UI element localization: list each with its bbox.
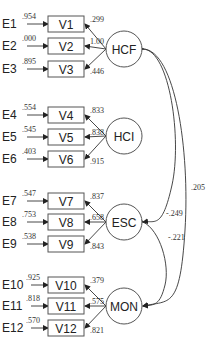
error-term-label: E8 — [2, 215, 17, 229]
error-term-label: E5 — [2, 130, 17, 144]
error-variance: .538 — [22, 232, 36, 241]
loading-value: 1.00 — [90, 37, 104, 46]
error-variance: .547 — [22, 189, 36, 198]
loading-arrow — [85, 306, 106, 328]
indicator-label: V5 — [59, 131, 74, 145]
error-term-label: E11 — [2, 299, 23, 313]
loading-value: .299 — [90, 15, 104, 24]
loading-value: .658 — [90, 213, 104, 222]
factor-label: HCI — [114, 130, 135, 144]
error-variance: .753 — [22, 210, 36, 219]
covariance-paths: .205-.249-.221 — [143, 49, 205, 306]
indicators: E1.954V1E2.000V2E3.895V3E4.554V4E5.545V5… — [2, 12, 84, 336]
sem-diagram: .205-.249-.221 .2991.00.446.833.838.915.… — [0, 0, 216, 355]
error-variance: .895 — [22, 57, 36, 66]
error-variance: .954 — [22, 12, 36, 21]
indicator-label: V6 — [59, 153, 74, 167]
error-term-label: E12 — [2, 321, 24, 335]
covariance-value: -.249 — [166, 209, 183, 218]
error-variance: .925 — [26, 273, 40, 282]
factors: HCFHCIESCMON — [106, 31, 142, 324]
error-term-label: E10 — [2, 278, 24, 292]
error-term-label: E6 — [2, 152, 17, 166]
error-variance: .554 — [22, 103, 36, 112]
indicator-label: V9 — [59, 238, 74, 252]
loading-value: .915 — [90, 157, 104, 166]
error-term-label: E1 — [2, 17, 17, 31]
indicator-label: V4 — [59, 109, 74, 123]
loading-value: .833 — [90, 106, 104, 115]
loading-paths: .2991.00.446.833.838.915.837.658.843.379… — [85, 15, 106, 335]
error-variance: .818 — [26, 294, 40, 303]
factor-label: HCF — [112, 43, 137, 57]
indicator-label: V8 — [59, 216, 74, 230]
error-term-label: E4 — [2, 108, 17, 122]
loading-value: .843 — [90, 242, 104, 251]
error-variance: .570 — [26, 316, 40, 325]
indicator-label: V1 — [59, 18, 74, 32]
loading-arrow — [85, 46, 106, 49]
factor-label: ESC — [112, 216, 137, 230]
indicator-label: V11 — [56, 300, 77, 314]
loading-value: .575 — [90, 297, 104, 306]
loading-arrow — [85, 136, 106, 159]
loading-value: .379 — [90, 276, 104, 285]
error-variance: .545 — [22, 125, 36, 134]
error-term-label: E7 — [2, 194, 17, 208]
loading-value: .821 — [90, 326, 104, 335]
loading-value: .446 — [90, 67, 104, 76]
loading-arrow — [85, 222, 106, 244]
loading-arrow — [85, 49, 106, 69]
error-term-label: E2 — [2, 39, 17, 53]
error-term-label: E3 — [2, 62, 17, 76]
covariance-hcf-esc — [143, 49, 175, 222]
indicator-label: V3 — [59, 63, 74, 77]
error-term-label: E9 — [2, 237, 17, 251]
covariance-hcf-mon — [143, 49, 186, 306]
error-variance: .403 — [22, 147, 36, 156]
covariance-value: .205 — [191, 183, 205, 192]
indicator-label: V2 — [59, 40, 74, 54]
indicator-label: V12 — [55, 322, 77, 336]
loading-value: .837 — [90, 192, 104, 201]
indicator-label: V7 — [59, 195, 74, 209]
loading-value: .838 — [90, 128, 104, 137]
factor-label: MON — [110, 300, 138, 314]
covariance-value: -.221 — [168, 233, 185, 242]
covariance-esc-mon — [143, 222, 166, 306]
error-variance: .000 — [22, 34, 36, 43]
indicator-label: V10 — [55, 279, 77, 293]
